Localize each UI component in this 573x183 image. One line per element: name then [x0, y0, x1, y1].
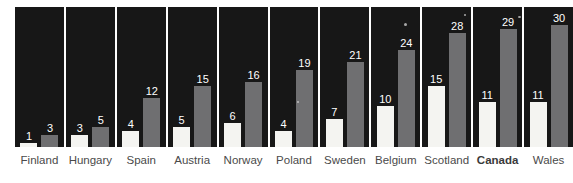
- panel-plot-area: 616: [219, 9, 268, 147]
- chart-panel: 419: [270, 7, 319, 147]
- bar-white: 7: [326, 119, 343, 147]
- chart-panel: 13: [15, 7, 64, 147]
- bar-value-label: 16: [247, 69, 259, 81]
- category-label-sweden: Sweden: [320, 152, 369, 172]
- chart-panels: 13354125156164197211024152811291130: [15, 7, 573, 147]
- bar-value-label: 21: [349, 49, 361, 61]
- bar-white: 4: [275, 131, 292, 147]
- bar-value-label: 7: [331, 106, 337, 118]
- bar-white: 11: [479, 102, 496, 147]
- bar-value-label: 5: [179, 114, 185, 126]
- bar-white: 11: [530, 102, 547, 147]
- panel-plot-area: 13: [15, 9, 64, 147]
- bar-gray: 15: [194, 86, 211, 147]
- bar-value-label: 4: [280, 118, 286, 130]
- panel-plot-area: 1129: [473, 9, 522, 147]
- panel-plot-area: 1528: [422, 9, 471, 147]
- chart-panel: 35: [66, 7, 115, 147]
- bar-value-label: 6: [230, 110, 236, 122]
- bar-value-label: 15: [430, 73, 442, 85]
- category-label-belgium: Belgium: [371, 152, 420, 172]
- category-label-poland: Poland: [270, 152, 319, 172]
- bar-gray: 12: [143, 98, 160, 147]
- bar-white: 15: [428, 86, 445, 147]
- chart-panel: 1528: [422, 7, 471, 147]
- bar-value-label: 15: [197, 73, 209, 85]
- bar-gray: 5: [92, 127, 109, 147]
- bar-gray: 24: [398, 50, 415, 147]
- bar-white: 6: [224, 123, 241, 147]
- bar-chart: 13354125156164197211024152811291130 Finl…: [0, 0, 573, 183]
- category-label-finland: Finland: [15, 152, 64, 172]
- bar-value-label: 1: [26, 130, 32, 142]
- bar-value-label: 5: [98, 114, 104, 126]
- bar-value-label: 11: [532, 89, 543, 101]
- bar-gray: 19: [296, 70, 313, 147]
- bar-white: 3: [71, 135, 88, 147]
- bar-value-label: 30: [553, 12, 565, 24]
- panel-plot-area: 35: [66, 9, 115, 147]
- bar-value-label: 12: [146, 85, 158, 97]
- bar-value-label: 10: [379, 93, 391, 105]
- panel-plot-area: 515: [168, 9, 217, 147]
- bar-white: 5: [173, 127, 190, 147]
- chart-panel: 616: [219, 7, 268, 147]
- bar-gray: 16: [245, 82, 262, 147]
- chart-panel: 1129: [473, 7, 522, 147]
- category-label-canada: Canada: [473, 152, 522, 172]
- chart-panel: 515: [168, 7, 217, 147]
- category-axis-labels: FinlandHungarySpainAustriaNorwayPolandSw…: [15, 152, 573, 172]
- bar-gray: 30: [551, 25, 568, 147]
- chart-panel: 1024: [371, 7, 420, 147]
- bar-gray: 28: [449, 33, 466, 147]
- bar-value-label: 19: [298, 57, 310, 69]
- category-label-norway: Norway: [219, 152, 268, 172]
- bar-value-label: 4: [128, 118, 134, 130]
- bar-value-label: 28: [451, 20, 463, 32]
- panel-plot-area: 419: [270, 9, 319, 147]
- category-label-austria: Austria: [168, 152, 217, 172]
- panel-plot-area: 721: [320, 9, 369, 147]
- panel-plot-area: 1130: [524, 9, 573, 147]
- category-label-scotland: Scotland: [422, 152, 471, 172]
- bar-value-label: 3: [47, 122, 53, 134]
- bar-value-label: 3: [77, 122, 83, 134]
- bar-value-label: 11: [481, 89, 492, 101]
- bar-gray: 29: [500, 29, 517, 147]
- chart-panel: 412: [117, 7, 166, 147]
- bar-white: 1: [20, 143, 37, 147]
- bar-gray: 21: [347, 62, 364, 147]
- panel-plot-area: 412: [117, 9, 166, 147]
- panel-plot-area: 1024: [371, 9, 420, 147]
- bar-white: 10: [377, 106, 394, 147]
- chart-panel: 1130: [524, 7, 573, 147]
- category-label-spain: Spain: [117, 152, 166, 172]
- category-label-wales: Wales: [524, 152, 573, 172]
- bar-white: 4: [122, 131, 139, 147]
- bar-gray: 3: [41, 135, 58, 147]
- bar-value-label: 29: [502, 16, 514, 28]
- chart-panel: 721: [320, 7, 369, 147]
- category-label-hungary: Hungary: [66, 152, 115, 172]
- bar-value-label: 24: [400, 37, 412, 49]
